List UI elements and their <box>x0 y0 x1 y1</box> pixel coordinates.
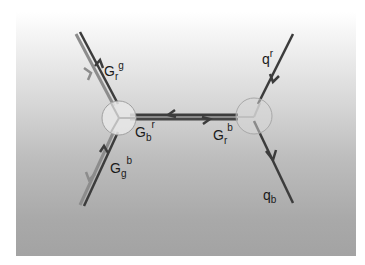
horizontal-gluon-line <box>130 110 238 124</box>
arrow-down-icon <box>84 68 91 80</box>
right-vertex <box>236 98 272 134</box>
top-right-quark-line <box>258 34 293 104</box>
feynman-diagram: Grg Ggb Gbr Grb qr qb <box>0 0 365 265</box>
label-top-right: qr <box>262 48 274 67</box>
label-top-left: Grg <box>104 60 124 82</box>
label-bottom-right: qb <box>263 187 277 205</box>
label-middle-right: Grb <box>213 122 233 146</box>
label-middle-left: Gbr <box>135 119 155 143</box>
label-bottom-left: Ggb <box>110 155 132 179</box>
arrow-down-icon <box>270 74 279 82</box>
left-vertex <box>102 101 136 135</box>
